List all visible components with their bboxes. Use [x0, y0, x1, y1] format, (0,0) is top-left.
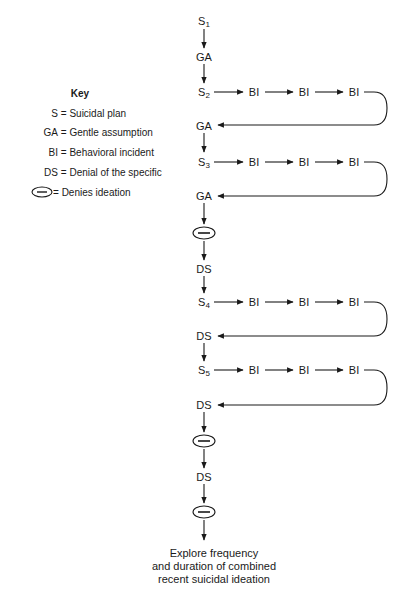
node-bi: BI: [349, 296, 359, 308]
node-ds4: DS: [196, 471, 211, 483]
final-outcome-text: Explore frequency and duration of combin…: [152, 547, 276, 586]
node-bi: BI: [299, 364, 309, 376]
legend-item-bi: BI = Behavioral incident: [37, 147, 154, 158]
node-bi: BI: [299, 156, 309, 168]
denies-ideation-icon: [193, 435, 215, 447]
node-s1: S1: [198, 15, 210, 27]
node-s4: S4: [198, 296, 210, 308]
node-bi: BI: [349, 364, 359, 376]
node-bi: BI: [249, 364, 259, 376]
node-s2: S2: [198, 86, 210, 98]
node-ds1: DS: [196, 263, 211, 275]
node-bi: BI: [249, 86, 259, 98]
node-s5: S5: [198, 364, 210, 376]
denies-ideation-icon: [193, 227, 215, 239]
legend-item-ga: GA = Gentle assumption: [37, 127, 153, 138]
node-bi: BI: [349, 156, 359, 168]
node-bi: BI: [249, 296, 259, 308]
node-bi: BI: [249, 156, 259, 168]
node-bi: BI: [299, 86, 309, 98]
legend-item-ds: DS = Denial of the specific: [37, 167, 162, 178]
legend-item-s: S = Suicidal plan: [37, 108, 126, 119]
node-ga2: GA: [196, 120, 212, 132]
node-ds2: DS: [196, 330, 211, 342]
node-ds3: DS: [196, 399, 211, 411]
legend-title: Key: [71, 88, 89, 99]
node-ga3: GA: [196, 190, 212, 202]
denies-ideation-icon: [193, 506, 215, 518]
legend-item-denies: = Denies ideation: [53, 187, 131, 198]
node-s3: S3: [198, 156, 210, 168]
node-bi: BI: [299, 296, 309, 308]
node-bi: BI: [349, 86, 359, 98]
node-ga1: GA: [196, 51, 212, 63]
key-denies-ideation-icon: [32, 187, 52, 197]
